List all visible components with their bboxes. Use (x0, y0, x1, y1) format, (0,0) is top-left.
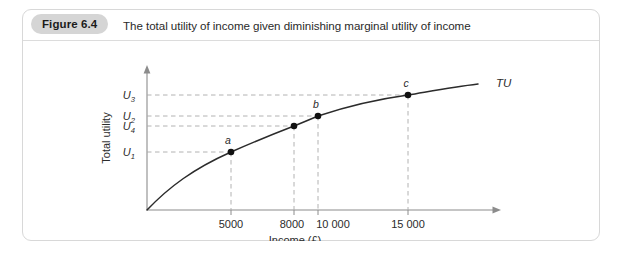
y-axis (144, 65, 151, 210)
data-point-a (228, 149, 235, 156)
data-point-b (315, 113, 322, 120)
data-point-label-b: b (313, 98, 319, 110)
data-point-label-a: a (225, 134, 231, 146)
vertical-guide-lines (231, 95, 408, 210)
figure-header: Figure 6.4 The total utility of income g… (23, 10, 599, 41)
data-point-c (405, 92, 412, 99)
y-axis-labels: U3 U2 U4 U1 (123, 89, 136, 161)
x-axis-tick-label-8000: 8000 (280, 218, 304, 230)
y-axis-label-u1: U1 (123, 146, 135, 161)
figure-number-badge: Figure 6.4 (31, 14, 108, 34)
horizontal-guide-lines (147, 95, 408, 152)
x-axis-tick-label-15000: 15 000 (391, 218, 425, 230)
data-point-8000 (291, 123, 298, 130)
data-points (228, 92, 412, 156)
x-axis-tick-label-10000: 10 000 (316, 218, 350, 230)
total-utility-chart: a b c TU U3 U2 U4 U1 Total utility 5000 … (23, 41, 601, 241)
figure-title: The total utility of income given dimini… (123, 10, 471, 41)
chart-plot-area: a b c TU U3 U2 U4 U1 Total utility 5000 … (23, 41, 599, 241)
x-axis-tick-label-5000: 5000 (219, 218, 243, 230)
data-point-labels: a b c (225, 77, 409, 146)
y-axis-label-u3: U3 (123, 89, 136, 104)
x-axis (147, 207, 501, 214)
data-point-label-c: c (403, 77, 409, 89)
figure-card: Figure 6.4 The total utility of income g… (22, 9, 600, 241)
curve-label-tu: TU (496, 77, 512, 89)
x-axis-ticks (231, 210, 408, 215)
x-axis-tick-labels: 5000 8000 10 000 15 000 (219, 218, 425, 230)
y-axis-title: Total utility (100, 112, 112, 164)
x-axis-title: Income (£) (269, 234, 322, 241)
